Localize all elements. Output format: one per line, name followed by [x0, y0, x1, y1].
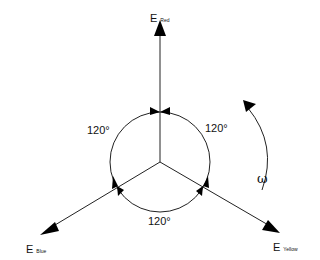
label-symbol: E [26, 243, 33, 255]
label-subscript: Yellow [283, 246, 297, 252]
angle-marker-right-down [196, 186, 203, 196]
label-e-blue: EBlue [26, 239, 46, 257]
blue-phasor-line [50, 162, 160, 228]
angle-marker-left-down [117, 186, 124, 196]
omega-label: ω [257, 171, 268, 186]
label-symbol: E [150, 12, 157, 24]
angle-marker-top-left [150, 107, 160, 115]
angle-marker-right-up [203, 176, 209, 188]
label-subscript: Red [160, 17, 169, 23]
label-symbol: E [273, 241, 280, 253]
label-subscript: Blue [36, 248, 46, 254]
yellow-phasor-line [160, 162, 270, 226]
angle-marker-top-right [160, 107, 170, 115]
label-e-red: ERed [150, 8, 170, 26]
angle-label-left: 120° [87, 124, 110, 136]
label-e-yellow: EYellow [273, 237, 298, 255]
yellow-arrowhead [262, 220, 280, 233]
angle-label-right: 120° [205, 122, 228, 134]
angle-label-bottom: 120° [148, 215, 171, 227]
